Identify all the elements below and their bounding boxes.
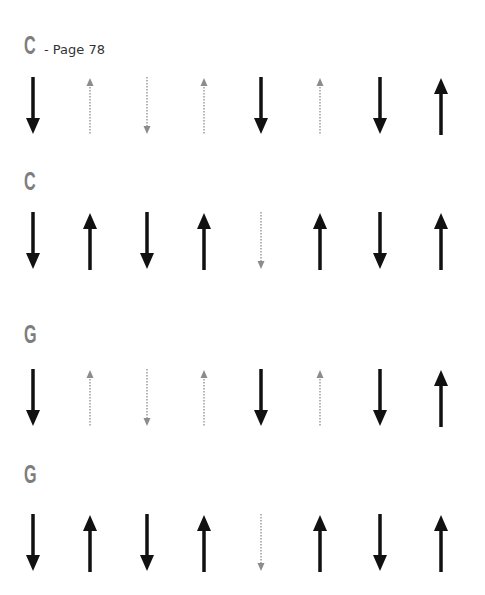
- strum-row: [0, 513, 485, 573]
- up-arrow-icon: [80, 211, 100, 271]
- strum-row: [0, 211, 485, 271]
- up-arrow-icon: [431, 76, 451, 136]
- up-arrow-icon: [80, 368, 100, 428]
- strum-row: [0, 76, 485, 136]
- down-arrow-icon: [370, 513, 390, 573]
- down-arrow-icon: [251, 368, 271, 428]
- chord-label: G: [24, 319, 31, 350]
- up-arrow-icon: [310, 211, 330, 271]
- chord-header: C - Page 78: [24, 30, 105, 61]
- down-arrow-icon: [251, 211, 271, 271]
- down-arrow-icon: [251, 76, 271, 136]
- up-arrow-icon: [194, 76, 214, 136]
- down-arrow-icon: [370, 76, 390, 136]
- page-reference: - Page 78: [44, 42, 105, 57]
- down-arrow-icon: [370, 368, 390, 428]
- up-arrow-icon: [431, 513, 451, 573]
- up-arrow-icon: [310, 513, 330, 573]
- up-arrow-icon: [80, 76, 100, 136]
- down-arrow-icon: [370, 211, 390, 271]
- chord-label: C: [24, 166, 31, 197]
- down-arrow-icon: [137, 76, 157, 136]
- up-arrow-icon: [310, 76, 330, 136]
- down-arrow-icon: [23, 513, 43, 573]
- down-arrow-icon: [23, 76, 43, 136]
- chord-label: G: [24, 459, 31, 490]
- chord-header: G: [24, 319, 36, 350]
- chord-header: C: [24, 166, 36, 197]
- down-arrow-icon: [137, 513, 157, 573]
- down-arrow-icon: [251, 513, 271, 573]
- chord-header: G: [24, 459, 36, 490]
- up-arrow-icon: [194, 368, 214, 428]
- up-arrow-icon: [80, 513, 100, 573]
- down-arrow-icon: [23, 368, 43, 428]
- up-arrow-icon: [431, 211, 451, 271]
- up-arrow-icon: [194, 211, 214, 271]
- up-arrow-icon: [194, 513, 214, 573]
- up-arrow-icon: [431, 368, 451, 428]
- down-arrow-icon: [137, 368, 157, 428]
- up-arrow-icon: [310, 368, 330, 428]
- down-arrow-icon: [137, 211, 157, 271]
- strum-row: [0, 368, 485, 428]
- chord-label: C: [24, 30, 31, 61]
- down-arrow-icon: [23, 211, 43, 271]
